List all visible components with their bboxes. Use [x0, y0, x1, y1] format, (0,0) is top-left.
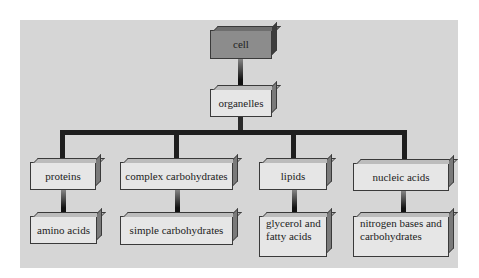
node-lipids-label: lipids: [281, 170, 305, 183]
node-cell: cell: [210, 30, 272, 59]
node-amino-acids: amino acids: [30, 216, 97, 244]
node-nucleic-acids-label: nucleic acids: [372, 171, 429, 184]
node-proteins: proteins: [30, 162, 96, 190]
node-nitrogen-bases-carbohydrates: nitrogen bases and carbohydrates: [353, 216, 449, 257]
node-complex-carbohydrates-label: complex carbohydrates: [125, 170, 227, 183]
node-organelles: organelles: [210, 89, 272, 117]
node-complex-carbohydrates: complex carbohydrates: [120, 162, 233, 190]
node-simple-carbohydrates-label: simple carbohydrates: [130, 224, 224, 237]
node-glycerol-fatty-acids: glycerol and fatty acids: [259, 216, 327, 257]
connector-horizontal-bus: [60, 130, 407, 135]
node-proteins-label: proteins: [45, 170, 80, 183]
node-nitrogen-line-1: nitrogen bases and: [360, 217, 442, 230]
node-glycerol-line-1: glycerol and: [266, 217, 321, 230]
node-cell-label: cell: [233, 38, 249, 51]
node-glycerol-line-2: fatty acids: [266, 230, 312, 243]
node-simple-carbohydrates: simple carbohydrates: [120, 216, 233, 245]
node-organelles-label: organelles: [218, 97, 263, 110]
node-nucleic-acids: nucleic acids: [353, 163, 449, 191]
connector-bus-lipids: [291, 130, 296, 161]
node-nitrogen-line-2: carbohydrates: [360, 230, 422, 243]
connector-bus-proteins: [60, 130, 65, 161]
node-amino-acids-label: amino acids: [37, 224, 90, 237]
node-lipids: lipids: [259, 162, 327, 190]
connector-bus-complex-carbohydrates: [174, 130, 179, 161]
